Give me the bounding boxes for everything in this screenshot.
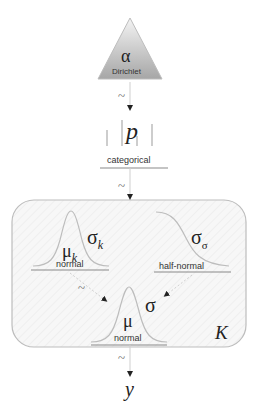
sigma-sigma-symbol: σσ bbox=[191, 226, 208, 251]
sigma-k-letter: σ bbox=[87, 226, 98, 248]
sigma-sigma-letter: σ bbox=[191, 226, 202, 248]
edge-alpha-p-tilde: ~ bbox=[118, 88, 125, 104]
sigma-k-subscript: k bbox=[98, 238, 103, 252]
sigma-sigma-subscript: σ bbox=[202, 239, 208, 251]
y-symbol: y bbox=[125, 378, 134, 401]
plate-diagram: α Dirichlet ~ p categorical ~ μk normal … bbox=[0, 0, 259, 416]
alpha-symbol: α bbox=[121, 46, 130, 67]
sigma-symbol: σ bbox=[145, 294, 156, 317]
sigma-k-symbol: σk bbox=[87, 226, 103, 253]
mu-k-distribution-label: normal bbox=[56, 259, 84, 269]
mu-distribution-label: normal bbox=[114, 333, 142, 343]
half-normal-distribution-label: half-normal bbox=[159, 261, 204, 271]
p-distribution-label: categorical bbox=[107, 155, 151, 165]
mu-symbol: μ bbox=[123, 311, 133, 332]
p-symbol: p bbox=[126, 118, 138, 145]
edge-p-plate-tilde: ~ bbox=[118, 178, 125, 194]
plate-label-k: K bbox=[215, 322, 228, 344]
edge-mu-y-tilde: ~ bbox=[118, 350, 125, 366]
edge-mu-k-mu-tilde: ~ bbox=[78, 280, 85, 296]
mu-k-letter: μ bbox=[62, 241, 72, 261]
alpha-distribution-label: Dirichlet bbox=[112, 67, 141, 76]
